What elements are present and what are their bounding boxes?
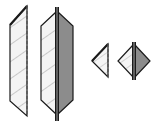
small-split-diamond-icon xyxy=(118,42,150,80)
diagram-canvas xyxy=(0,0,155,125)
tall-split-panel-icon xyxy=(41,7,73,121)
small-half-diamond-icon xyxy=(92,44,108,77)
tall-half-panel-icon xyxy=(10,6,27,116)
